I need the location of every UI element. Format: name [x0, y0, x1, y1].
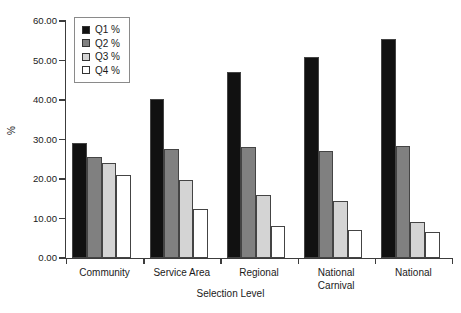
legend-label: Q4 %: [95, 65, 120, 76]
bar: [333, 201, 348, 258]
bar: [150, 99, 165, 258]
legend-label: Q1 %: [95, 24, 120, 35]
y-tick-label: 10.00: [5, 214, 57, 224]
y-tick-label: 60.00: [5, 16, 57, 26]
y-tick-mark: [59, 60, 65, 61]
bar: [116, 175, 131, 258]
y-axis-tick-labels: 0.0010.0020.0030.0040.0050.0060.00: [0, 0, 57, 313]
bar: [319, 151, 334, 258]
bar-chart-figure: 0.0010.0020.0030.0040.0050.0060.00 % Com…: [0, 0, 461, 313]
legend-label: Q3 %: [95, 51, 120, 62]
bar: [410, 222, 425, 258]
legend-item: Q3 %: [82, 50, 120, 64]
legend-item: Q2 %: [82, 37, 120, 51]
bar: [193, 209, 208, 258]
bar: [256, 195, 271, 258]
x-tick-mark: [66, 258, 67, 264]
bar: [241, 147, 256, 258]
bar: [164, 149, 179, 258]
x-axis-title: Selection Level: [0, 288, 461, 299]
legend-swatch-icon: [82, 39, 90, 47]
x-group-label: Regional: [220, 267, 297, 280]
x-tick-mark: [220, 258, 221, 264]
x-tick-mark: [298, 258, 299, 264]
bar-group: [143, 21, 220, 258]
y-tick-label: 20.00: [5, 174, 57, 184]
bar: [304, 57, 319, 258]
bar: [102, 163, 117, 258]
y-tick-mark: [59, 178, 65, 179]
legend-swatch-icon: [82, 66, 90, 74]
x-tick-mark: [143, 258, 144, 264]
y-tick-mark: [59, 20, 65, 21]
x-tick-mark: [452, 258, 453, 264]
y-tick-mark: [59, 257, 65, 258]
legend-item: Q1 %: [82, 23, 120, 37]
y-axis-title: %: [6, 116, 17, 146]
bar-group: [220, 21, 297, 258]
x-group-label: Service Area: [143, 267, 220, 280]
y-tick-label: 50.00: [5, 56, 57, 66]
bar: [179, 180, 194, 258]
bar: [87, 157, 102, 258]
x-group-label: National: [375, 267, 452, 280]
x-group-label: Community: [66, 267, 143, 280]
legend-swatch-icon: [82, 53, 90, 61]
bar: [348, 230, 363, 258]
y-tick-mark: [59, 218, 65, 219]
y-tick-mark: [59, 139, 65, 140]
bar: [72, 143, 87, 258]
bar: [381, 39, 396, 258]
y-tick-label: 0.00: [5, 253, 57, 263]
legend-label: Q2 %: [95, 38, 120, 49]
y-tick-label: 40.00: [5, 95, 57, 105]
bar-group: [375, 21, 452, 258]
legend-swatch-icon: [82, 26, 90, 34]
bar: [425, 232, 440, 258]
legend-item: Q4 %: [82, 64, 120, 78]
bar: [227, 72, 242, 258]
x-tick-mark: [375, 258, 376, 264]
bar: [396, 146, 411, 258]
y-tick-mark: [59, 99, 65, 100]
bar: [271, 226, 286, 258]
bar-group: [298, 21, 375, 258]
chart-legend: Q1 %Q2 %Q3 %Q4 %: [74, 17, 130, 83]
